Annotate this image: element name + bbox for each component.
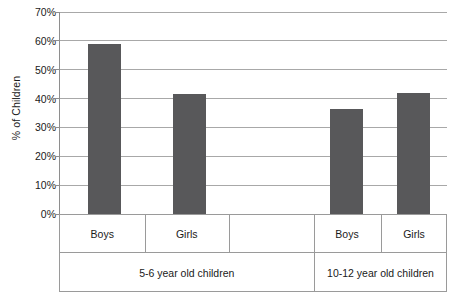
group-label-row: 5-6 year old children10-12 year old chil…: [60, 253, 446, 292]
category-divider: [229, 215, 230, 253]
y-tickmark-10%: [55, 185, 60, 186]
y-tickmark-50%: [55, 69, 60, 70]
y-tick-label: 10%: [22, 180, 56, 190]
y-tickmark-40%: [55, 98, 60, 99]
category-label-girls: Girls: [145, 215, 230, 253]
y-tickmark-20%: [55, 156, 60, 157]
bar-girls-5-6[interactable]: [173, 94, 206, 214]
y-tickmark-30%: [55, 127, 60, 128]
y-axis-tick-labels: 0%10%20%30%40%50%60%70%: [22, 0, 56, 215]
gridline-60%: [59, 40, 447, 41]
category-divider: [314, 215, 315, 253]
group-divider: [314, 253, 315, 292]
y-tick-label: 70%: [22, 7, 56, 17]
plot-area: [59, 12, 447, 214]
category-label-empty: [229, 215, 314, 253]
axis-label-table: BoysGirlsBoysGirls 5-6 year old children…: [59, 214, 447, 292]
y-tick-label: 20%: [22, 151, 56, 161]
bar-chart: % of Children 0%10%20%30%40%50%60%70% Bo…: [0, 0, 463, 298]
y-tick-label: 30%: [22, 122, 56, 132]
y-tickmark-70%: [55, 12, 60, 13]
y-tick-label: 50%: [22, 65, 56, 75]
bar-boys-5-6[interactable]: [88, 44, 121, 214]
category-label-girls: Girls: [381, 215, 448, 253]
category-label-boys: Boys: [60, 215, 145, 253]
y-tick-label: 60%: [22, 36, 56, 46]
y-tick-label: 40%: [22, 94, 56, 104]
category-divider: [381, 215, 382, 253]
y-tick-label: 0%: [22, 209, 56, 219]
category-label-boys: Boys: [314, 215, 381, 253]
gridline-70%: [59, 12, 447, 13]
group-label-1: 5-6 year old children: [60, 253, 314, 292]
category-divider: [145, 215, 146, 253]
group-label-2: 10-12 year old children: [314, 253, 448, 292]
category-label-row: BoysGirlsBoysGirls: [60, 215, 446, 253]
bar-boys-10-12[interactable]: [330, 109, 363, 214]
y-axis-title-text: % of Children: [10, 75, 22, 139]
bar-girls-10-12[interactable]: [397, 93, 430, 214]
y-tickmark-60%: [55, 40, 60, 41]
